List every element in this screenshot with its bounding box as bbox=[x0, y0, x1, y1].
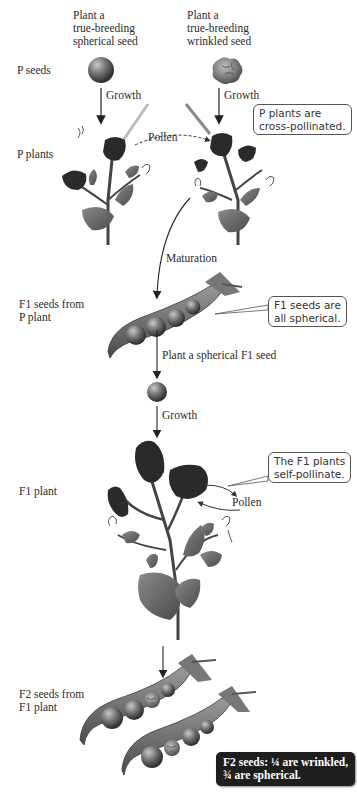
label-f2-seeds: F2 seeds from F1 plant bbox=[19, 688, 84, 714]
plant-f1-seed-label: Plant a spherical F1 seed bbox=[162, 349, 276, 362]
left-column-header: Plant a true-breeding spherical seed bbox=[73, 9, 138, 48]
label-f1-plant: F1 plant bbox=[19, 485, 57, 498]
wrinkled-seed-icon bbox=[213, 57, 243, 84]
pollen-label-self: Pollen bbox=[232, 496, 261, 509]
callout-f2-result: F2 seeds: ¼ are wrinkled, ¾ are spherica… bbox=[216, 752, 355, 786]
label-p-plants: P plants bbox=[17, 148, 53, 161]
callout-f1-spherical: F1 seeds are all spherical. bbox=[268, 296, 347, 327]
label-f1-seeds: F1 seeds from P plant bbox=[19, 298, 84, 324]
label-p-seeds: P seeds bbox=[17, 64, 51, 77]
growth-label-f1: Growth bbox=[162, 409, 197, 422]
pollen-label-cross: Pollen bbox=[148, 131, 177, 144]
maturation-label: Maturation bbox=[166, 252, 217, 265]
f1-plant-illustration bbox=[108, 441, 232, 640]
p-plant-right-illustration bbox=[194, 133, 274, 245]
spherical-seed-icon bbox=[88, 57, 114, 83]
f1-pod-illustration bbox=[108, 272, 242, 358]
f1-seed-icon bbox=[147, 382, 167, 402]
callout-self-pollinate: The F1 plants self-pollinate. bbox=[268, 452, 351, 483]
growth-label-left: Growth bbox=[106, 89, 141, 102]
callout-cross-pollinated: P plants are cross-pollinated. bbox=[253, 104, 352, 135]
right-column-header: Plant a true-breeding wrinkled seed bbox=[187, 9, 251, 48]
growth-label-right: Growth bbox=[224, 89, 259, 102]
